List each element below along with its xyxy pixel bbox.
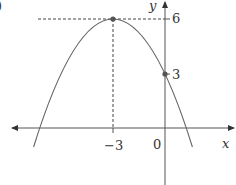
parabola-diagram: ) y 6 3 −3 0 x	[0, 0, 236, 185]
y-intercept-label: 3	[172, 67, 180, 82]
part-marker: )	[0, 0, 2, 13]
x-axis-label: x	[222, 136, 230, 151]
y-axis-label: y	[148, 0, 157, 13]
origin-label: 0	[153, 137, 161, 152]
vertex-y-label: 6	[172, 11, 180, 26]
y-intercept-point	[162, 71, 167, 76]
vertex-point	[110, 16, 115, 21]
vertex-x-label: −3	[104, 138, 123, 153]
